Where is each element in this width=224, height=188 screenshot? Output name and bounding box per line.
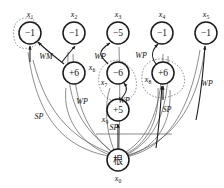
node-x7-value: −6	[113, 68, 123, 78]
edge-x8-x4-arrow	[152, 44, 158, 64]
node-x0-value: 根	[113, 154, 123, 166]
node-x0-root[interactable]: 根 x0	[107, 149, 129, 184]
node-x8-label: x8	[144, 75, 152, 85]
node-x9-value: +5	[113, 105, 123, 115]
graph-canvas: −1 x1 −1 x2 −5 x3 −1 x4 −1 x5	[0, 0, 224, 188]
edge-label-wm-1: WM	[39, 52, 54, 61]
edge-label-wp-4: WP	[76, 97, 88, 106]
node-x7-label: x7	[100, 78, 108, 88]
node-x0-label: x0	[114, 174, 122, 184]
node-x2[interactable]: −1 x2	[63, 10, 85, 44]
node-x3[interactable]: −5 x3	[107, 10, 129, 44]
node-x8[interactable]: +6 x8	[144, 62, 174, 85]
node-x4-label: x4	[158, 10, 166, 20]
node-x1[interactable]: −1 x1	[19, 10, 41, 44]
node-x2-value: −1	[69, 28, 79, 38]
edge-label-wp-2: WP	[135, 51, 147, 60]
dependency-graph-figure: −1 x1 −1 x2 −5 x3 −1 x4 −1 x5	[0, 0, 224, 188]
node-x9-label: x9	[101, 115, 109, 125]
node-x6-label: x6	[88, 63, 96, 73]
node-x6-value: +6	[69, 68, 79, 78]
edge-label-wp-3: WP	[201, 79, 213, 88]
node-x5-value: −1	[201, 28, 211, 38]
node-x5[interactable]: −1 x5	[195, 10, 217, 44]
node-x5-label: x5	[202, 10, 210, 20]
edge-label-wp-1: WP	[94, 52, 106, 61]
node-x6[interactable]: +6 x6	[63, 62, 95, 84]
node-x4-value: −1	[157, 28, 167, 38]
node-x4[interactable]: −1 x4	[151, 10, 173, 44]
edge-label-sp-1: SP	[35, 112, 44, 121]
edge-label-wp-5: WP	[118, 96, 130, 105]
node-x1-label: x1	[26, 10, 34, 20]
edge-label-sp-2: SP	[163, 105, 172, 114]
node-x1-value: −1	[25, 28, 35, 38]
edge-label-sp-3: SP	[110, 123, 119, 132]
node-x2-label: x2	[70, 10, 78, 20]
node-x3-label: x3	[114, 10, 122, 20]
node-x3-value: −5	[113, 28, 123, 38]
node-x8-value: +6	[158, 68, 168, 78]
